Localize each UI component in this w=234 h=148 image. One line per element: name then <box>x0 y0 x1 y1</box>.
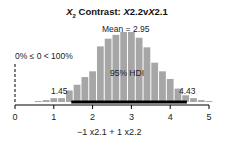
histogram-bar <box>144 47 151 102</box>
histogram-bar <box>167 79 174 102</box>
histogram-bar <box>198 100 205 102</box>
histogram-bar <box>50 98 57 102</box>
mean-label: Mean = 2.95 <box>102 24 150 34</box>
histogram-bar <box>151 63 158 102</box>
x-tick-label: 5 <box>206 112 211 122</box>
x-axis-label: −1 x2.1 + 1 x2.2 <box>77 127 142 137</box>
histogram-bar <box>159 71 166 102</box>
histogram-bar <box>35 101 42 102</box>
histogram-bar <box>128 32 135 102</box>
histogram-bar <box>97 46 104 102</box>
comparison-label: 0% ≤ 0 < 100% <box>15 51 73 61</box>
hdi-label: 95% HDI <box>110 68 144 78</box>
histogram-bar <box>89 71 96 102</box>
histogram-bar <box>43 100 50 102</box>
x-tick-label: 1 <box>51 112 56 122</box>
x-tick-label: 0 <box>12 112 17 122</box>
x-tick-label: 3 <box>129 112 134 122</box>
x-tick-label: 2 <box>90 112 95 122</box>
hdi-low-label: 1.45 <box>51 86 68 96</box>
histogram-bar <box>74 85 81 102</box>
histogram-bar <box>190 98 197 102</box>
histogram-bar <box>120 32 127 102</box>
x-tick-label: 4 <box>168 112 173 122</box>
histogram-bar <box>58 98 65 102</box>
histogram-bar <box>81 77 88 102</box>
histogram-bar <box>206 101 213 102</box>
hdi-high-label: 4.43 <box>179 86 196 96</box>
